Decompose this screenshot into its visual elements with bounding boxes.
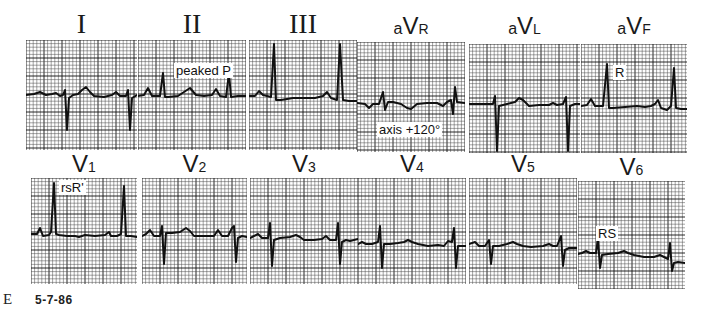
- ecg-strip-i: [26, 40, 137, 150]
- recording-date: 5-7-86: [35, 293, 73, 307]
- annotation-v1: rsR': [59, 180, 86, 195]
- ecg-strip-v4: [358, 178, 466, 284]
- ecg-strip-v2: [142, 178, 247, 284]
- ecg-strip-avl: [469, 44, 580, 153]
- annotation-avf: R: [613, 65, 626, 80]
- figure-panel-letter: E: [3, 291, 12, 308]
- annotation-ii: peaked P: [174, 63, 233, 78]
- lead-label-v2: V2: [142, 152, 247, 176]
- lead-label-v3: V3: [250, 152, 358, 176]
- ecg-strip-ii: [138, 40, 246, 150]
- lead-label-v5: V5: [469, 152, 577, 176]
- lead-label-avr: aVR: [357, 14, 465, 38]
- ecg-strip-v6: [578, 181, 685, 289]
- lead-label-v1: V1: [31, 152, 137, 176]
- ecg-strip-v5: [469, 178, 577, 284]
- lead-label-avf: aVF: [581, 14, 687, 38]
- annotation-v6: RS: [596, 226, 618, 241]
- lead-label-iii: III: [249, 10, 357, 38]
- lead-label-avl: aVL: [469, 14, 580, 38]
- lead-label-v4: V4: [358, 152, 466, 176]
- lead-label-i: I: [26, 10, 137, 38]
- annotation-avr: axis +120°: [377, 122, 442, 137]
- ecg-strip-v3: [250, 178, 358, 284]
- lead-label-v6: V6: [578, 155, 685, 179]
- ecg-strip-avf: [581, 44, 687, 153]
- ecg-strip-iii: [249, 40, 357, 150]
- lead-label-ii: II: [138, 10, 246, 38]
